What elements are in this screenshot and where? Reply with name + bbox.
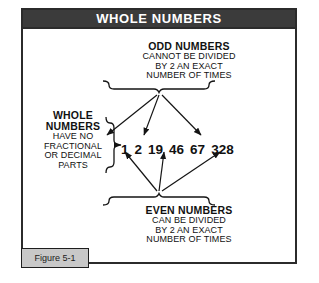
number-item-1: 1 xyxy=(121,142,129,157)
number-item-328: 328 xyxy=(211,142,234,157)
figure-caption-text: Figure 5-1 xyxy=(34,253,75,263)
odd-numbers-line-3: NUMBER OF TIMES xyxy=(109,71,269,81)
odd-brace-icon xyxy=(103,81,215,93)
whole-numbers-line-4: PARTS xyxy=(31,161,115,171)
figure-root: WHOLE NUMBERS xyxy=(0,0,319,283)
odd-arrows xyxy=(107,95,201,135)
even-numbers-group: EVEN NUMBERS CAN BE DIVIDED BY 2 AN EXAC… xyxy=(109,205,269,245)
even-arrows xyxy=(125,152,220,191)
even-numbers-line-3: NUMBER OF TIMES xyxy=(109,235,269,245)
figure-caption-label: Figure 5-1 xyxy=(21,248,89,268)
figure-title-bar: WHOLE NUMBERS xyxy=(21,8,297,29)
page-title: WHOLE NUMBERS xyxy=(96,12,222,25)
whole-numbers-group: WHOLE NUMBERS HAVE NO FRACTIONAL OR DECI… xyxy=(31,110,115,170)
number-item-67: 67 xyxy=(190,142,205,157)
number-item-46: 46 xyxy=(169,142,184,157)
number-item-19: 19 xyxy=(148,142,163,157)
number-item-2: 2 xyxy=(135,142,143,157)
number-list: 1 2 19 46 67 328 xyxy=(121,142,234,157)
odd-numbers-group: ODD NUMBERS CANNOT BE DIVIDED BY 2 AN EX… xyxy=(109,41,269,81)
figure-canvas: ODD NUMBERS CANNOT BE DIVIDED BY 2 AN EX… xyxy=(21,29,297,264)
